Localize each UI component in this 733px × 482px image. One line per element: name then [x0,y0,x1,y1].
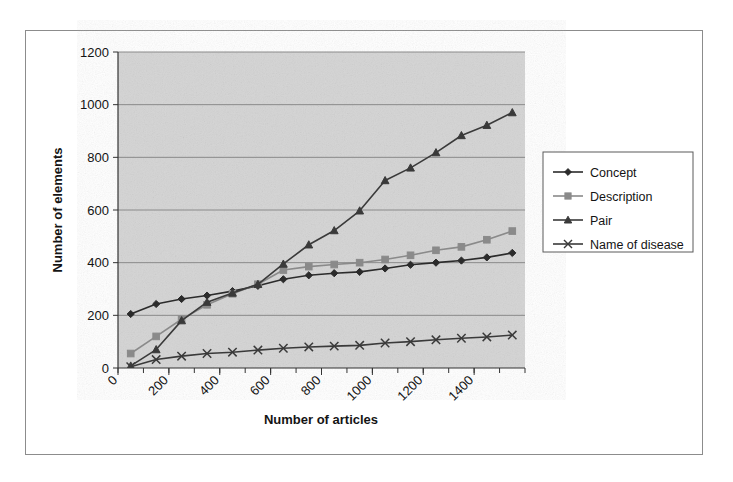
line-chart: 020040060080010001200 020040060080010001… [0,0,733,482]
legend-label: Name of disease [590,238,684,252]
y-tick-marks [113,52,118,368]
x-tick-label: 800 [298,373,324,399]
marker-square [356,259,363,266]
marker-square [305,263,312,270]
x-tick-label: 600 [247,373,273,399]
marker-square [331,261,338,268]
y-tick-label: 800 [87,150,109,165]
y-tick-label: 1200 [80,45,109,60]
legend-label: Concept [590,166,637,180]
marker-square [433,247,440,254]
x-tick-label: 200 [145,373,171,399]
x-axis-title: Number of articles [264,412,378,427]
x-tick-label: 1000 [343,373,374,404]
y-tick-label: 1000 [80,97,109,112]
y-axis-title: Number of elements [50,148,65,273]
legend-label: Description [590,190,653,204]
y-tick-label: 600 [87,203,109,218]
marker-square [458,244,465,251]
y-tick-labels: 020040060080010001200 [80,45,109,376]
x-minor-tick-marks [118,368,525,373]
marker-square [484,236,491,243]
legend-label: Pair [590,214,612,228]
marker-square [382,256,389,263]
x-tick-label: 400 [196,373,222,399]
x-tick-label: 1200 [394,373,425,404]
marker-square [407,252,414,259]
marker-square [153,333,160,340]
y-tick-label: 400 [87,255,109,270]
x-tick-label: 1400 [445,373,476,404]
marker-square [509,228,516,235]
x-tick-labels: 0200400600800100012001400 [104,373,476,404]
marker-square [280,267,287,274]
marker-square [127,350,134,357]
marker-square [565,193,571,199]
y-tick-label: 200 [87,308,109,323]
